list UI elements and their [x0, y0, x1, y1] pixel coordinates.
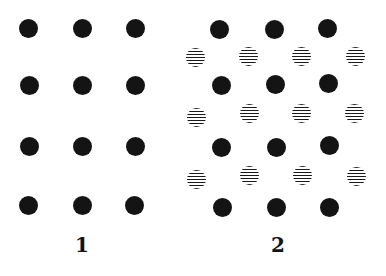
panel-2-solid-dot [266, 75, 285, 94]
panel-2-label: 2 [271, 233, 285, 257]
panel-2-solid-dot [212, 76, 231, 95]
panel-1-label: 1 [75, 233, 89, 257]
panel-2-solid-dot [267, 138, 286, 157]
panel-1-solid-dot [73, 19, 92, 38]
panel-2-solid-dot [320, 198, 339, 217]
panel-1-solid-dot [19, 196, 38, 215]
panel-1-solid-dot [125, 196, 144, 215]
panel-2-solid-dot [265, 20, 284, 39]
panel-2-striped-dot [292, 104, 311, 123]
panel-2-striped-dot [240, 104, 259, 123]
panel-2-striped-dot [239, 47, 258, 66]
panel-1-solid-dot [126, 137, 145, 156]
panel-2-striped-dot [346, 47, 365, 66]
panel-2-solid-dot [320, 136, 339, 155]
panel-2-striped-dot [187, 170, 206, 189]
panel-1-solid-dot [73, 196, 92, 215]
panel-2-striped-dot [345, 104, 364, 123]
panel-1-solid-dot [19, 19, 38, 38]
panel-1-solid-dot [20, 137, 39, 156]
panel-1-solid-dot [126, 76, 145, 95]
panel-2-solid-dot [210, 20, 229, 39]
panel-2-striped-dot [292, 47, 311, 66]
panel-2-striped-dot [240, 166, 259, 185]
panel-2-solid-dot [212, 138, 231, 157]
panel-2-striped-dot [186, 48, 205, 67]
panel-2-solid-dot [267, 198, 286, 217]
panel-1-solid-dot [73, 76, 92, 95]
panel-1-solid-dot [73, 137, 92, 156]
panel-2-striped-dot [347, 167, 366, 186]
panel-2-striped-dot [293, 166, 312, 185]
panel-1-solid-dot [20, 76, 39, 95]
panel-2-striped-dot [187, 108, 206, 127]
panel-2-solid-dot [213, 198, 232, 217]
panel-2-solid-dot [318, 19, 337, 38]
panel-2-solid-dot [319, 74, 338, 93]
panel-1-solid-dot [126, 19, 145, 38]
